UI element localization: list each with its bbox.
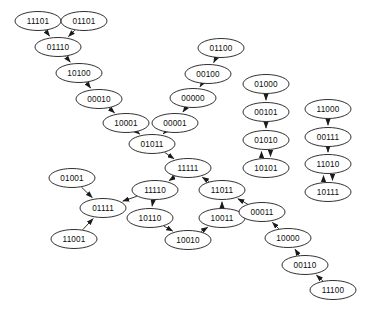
graph-node[interactable]: 11001 bbox=[51, 230, 97, 249]
graph-node-shape[interactable] bbox=[199, 209, 245, 228]
graph-node[interactable]: 10100 bbox=[56, 64, 102, 83]
graph-node-shape[interactable] bbox=[56, 64, 102, 83]
graph-node-shape[interactable] bbox=[80, 199, 126, 218]
graph-edge bbox=[169, 176, 175, 180]
graph-edge bbox=[86, 83, 90, 89]
graph-node-shape[interactable] bbox=[51, 230, 97, 249]
graph-canvas: 1110101101011101010000010100010110000100… bbox=[0, 0, 370, 312]
graph-node[interactable]: 00100 bbox=[185, 65, 231, 84]
graph-edge bbox=[272, 222, 278, 228]
state-transition-diagram: 1110101101011101010000010100010110000100… bbox=[0, 0, 370, 312]
graph-node-shape[interactable] bbox=[61, 12, 107, 31]
graph-node-shape[interactable] bbox=[265, 229, 311, 248]
graph-node-shape[interactable] bbox=[305, 155, 351, 174]
graph-edge bbox=[183, 108, 186, 112]
graph-node[interactable]: 10000 bbox=[265, 229, 311, 248]
graph-node[interactable]: 01010 bbox=[243, 131, 289, 150]
graph-node-shape[interactable] bbox=[243, 159, 289, 178]
graph-edge bbox=[152, 200, 153, 206]
graph-edge bbox=[165, 152, 174, 158]
graph-node-shape[interactable] bbox=[127, 209, 173, 228]
graph-node-shape[interactable] bbox=[310, 281, 356, 300]
graph-node-shape[interactable] bbox=[76, 90, 122, 109]
graph-node[interactable]: 00001 bbox=[152, 114, 198, 133]
graph-node[interactable]: 01110 bbox=[35, 38, 81, 57]
graph-edge bbox=[202, 177, 209, 181]
graph-node-shape[interactable] bbox=[305, 100, 351, 119]
graph-edge bbox=[238, 199, 248, 204]
graph-node-shape[interactable] bbox=[243, 75, 289, 94]
graph-node[interactable]: 00011 bbox=[239, 203, 285, 222]
graph-edge bbox=[45, 31, 49, 37]
graph-edge bbox=[123, 196, 137, 201]
graph-node[interactable]: 01001 bbox=[49, 169, 95, 188]
graph-node[interactable]: 11100 bbox=[310, 281, 356, 300]
graph-edge bbox=[164, 226, 173, 231]
graph-node-shape[interactable] bbox=[129, 135, 175, 154]
graph-node-shape[interactable] bbox=[132, 181, 178, 200]
graph-node-shape[interactable] bbox=[305, 183, 351, 202]
graph-node[interactable]: 00110 bbox=[282, 256, 328, 275]
graph-node-shape[interactable] bbox=[243, 131, 289, 150]
graph-node[interactable]: 11000 bbox=[305, 100, 351, 119]
graph-edge bbox=[68, 30, 74, 36]
graph-edge bbox=[163, 132, 165, 134]
graph-edge bbox=[109, 108, 114, 113]
graph-edge bbox=[201, 227, 208, 231]
graph-edge bbox=[214, 58, 216, 63]
graph-node[interactable]: 01101 bbox=[61, 12, 107, 31]
graph-node-shape[interactable] bbox=[165, 231, 211, 250]
nodes-layer: 1110101101011101010000010100010110000100… bbox=[15, 12, 356, 300]
graph-node[interactable]: 11010 bbox=[305, 155, 351, 174]
graph-node-shape[interactable] bbox=[243, 103, 289, 122]
graph-node[interactable]: 10011 bbox=[199, 209, 245, 228]
graph-node-shape[interactable] bbox=[282, 256, 328, 275]
graph-node[interactable]: 01011 bbox=[129, 135, 175, 154]
graph-node[interactable]: 11110 bbox=[132, 181, 178, 200]
graph-edge bbox=[200, 84, 202, 87]
graph-node[interactable]: 00000 bbox=[170, 89, 216, 108]
graph-edge bbox=[316, 275, 322, 281]
graph-node-shape[interactable] bbox=[170, 89, 216, 108]
graph-node-shape[interactable] bbox=[185, 65, 231, 84]
graph-edge bbox=[66, 56, 71, 62]
graph-node[interactable]: 00111 bbox=[305, 128, 351, 147]
graph-node[interactable]: 10111 bbox=[305, 183, 351, 202]
graph-node[interactable]: 01100 bbox=[198, 39, 244, 58]
graph-node[interactable]: 10001 bbox=[103, 114, 149, 133]
graph-node[interactable]: 00101 bbox=[243, 103, 289, 122]
graph-node-shape[interactable] bbox=[49, 169, 95, 188]
graph-node-shape[interactable] bbox=[35, 38, 81, 57]
graph-node-shape[interactable] bbox=[15, 12, 61, 31]
graph-node[interactable]: 10110 bbox=[127, 209, 173, 228]
graph-edge bbox=[81, 187, 92, 197]
graph-node-shape[interactable] bbox=[165, 159, 211, 178]
graph-node-shape[interactable] bbox=[199, 181, 245, 200]
graph-edge bbox=[137, 132, 140, 134]
graph-node[interactable]: 01000 bbox=[243, 75, 289, 94]
graph-edge bbox=[83, 219, 93, 230]
graph-node-shape[interactable] bbox=[198, 39, 244, 58]
graph-node-shape[interactable] bbox=[103, 114, 149, 133]
graph-node-shape[interactable] bbox=[239, 203, 285, 222]
graph-node-shape[interactable] bbox=[152, 114, 198, 133]
graph-edge bbox=[295, 249, 299, 255]
graph-node-shape[interactable] bbox=[305, 128, 351, 147]
graph-node[interactable]: 10010 bbox=[165, 231, 211, 250]
graph-node[interactable]: 11011 bbox=[199, 181, 245, 200]
graph-node[interactable]: 00010 bbox=[76, 90, 122, 109]
graph-node[interactable]: 01111 bbox=[80, 199, 126, 218]
graph-node[interactable]: 11101 bbox=[15, 12, 61, 31]
graph-node[interactable]: 11111 bbox=[165, 159, 211, 178]
graph-node[interactable]: 10101 bbox=[243, 159, 289, 178]
